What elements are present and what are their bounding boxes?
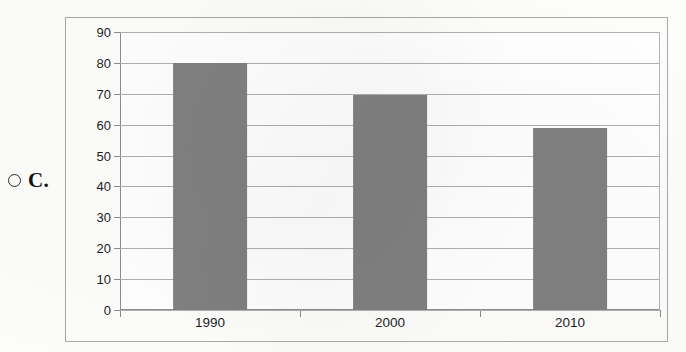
chart-plot-region: 9080706050403020100: [120, 32, 660, 310]
answer-option-label: C.: [28, 170, 49, 191]
x-tick-label-2000: 2000: [300, 316, 480, 330]
bar-series: [120, 32, 660, 310]
x-tick-label-1990: 1990: [120, 316, 300, 330]
y-tick-label-70: 70: [97, 87, 111, 100]
bar-1990: [173, 63, 247, 310]
bar-slot-1990: [120, 32, 300, 310]
answer-option-c[interactable]: C.: [8, 170, 49, 191]
y-tick-label-0: 0: [104, 304, 111, 317]
radio-unselected-icon[interactable]: [8, 174, 21, 187]
answer-option-figure: C. 9080706050403020100 199020002010: [0, 0, 686, 352]
y-tick-label-60: 60: [97, 118, 111, 131]
bar-slot-2010: [480, 32, 660, 310]
y-tick-label-20: 20: [97, 242, 111, 255]
bar-slot-2000: [300, 32, 480, 310]
y-tick-label-30: 30: [97, 211, 111, 224]
bar-2000: [353, 95, 427, 310]
y-tick-label-50: 50: [97, 149, 111, 162]
gridline-0: [120, 310, 660, 311]
y-tick-label-90: 90: [97, 26, 111, 39]
bar-2010: [533, 128, 607, 310]
y-tick-label-10: 10: [97, 273, 111, 286]
x-axis-labels: 199020002010: [120, 316, 660, 330]
y-tick-label-40: 40: [97, 180, 111, 193]
y-tick-label-80: 80: [97, 56, 111, 69]
x-tick-edge-1: [660, 310, 661, 317]
x-tick-label-2010: 2010: [480, 316, 660, 330]
